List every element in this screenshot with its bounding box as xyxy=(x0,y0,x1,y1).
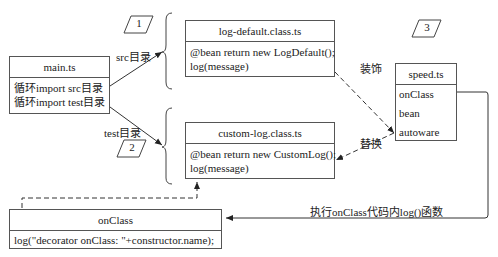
execute-label: 执行onClass代码内log()函数 xyxy=(310,203,443,219)
speed-item-autoware: autoware xyxy=(399,123,453,142)
step-3-label: 3 xyxy=(412,21,442,33)
main-line-2: 循环import test目录 xyxy=(14,95,105,109)
main-ts-box: main.ts 循环import src目录 循环import test目录 xyxy=(9,56,110,114)
step-1-label: 1 xyxy=(124,17,154,29)
main-line-1: 循环import src目录 xyxy=(14,81,105,95)
log-default-line-2: log(message) xyxy=(190,59,330,73)
src-label: src目录 xyxy=(116,48,151,64)
speed-ts-title: speed.ts xyxy=(396,64,456,85)
speed-ts-box: speed.ts onClass bean autoware xyxy=(395,63,457,141)
onclass-line-1: log("decorator onClass: "+constructor.na… xyxy=(14,233,217,247)
main-ts-title: main.ts xyxy=(10,57,109,78)
decorate-label: 装饰 xyxy=(360,60,382,76)
log-default-title: log-default.class.ts xyxy=(186,21,334,42)
custom-log-box: custom-log.class.ts @bean return new Cus… xyxy=(185,122,335,179)
replace-label: 替换 xyxy=(360,135,382,151)
custom-log-line-1: @bean return new CustomLog(); xyxy=(190,147,330,161)
step-2-label: 2 xyxy=(117,141,147,153)
log-default-line-1: @bean return new LogDefault(); xyxy=(190,45,330,59)
speed-item-bean: bean xyxy=(399,104,453,123)
test-label: test目录 xyxy=(104,124,141,140)
onclass-box: onClass log("decorator onClass: "+constr… xyxy=(9,209,222,249)
onclass-title: onClass xyxy=(10,210,221,231)
speed-item-onclass: onClass xyxy=(399,85,453,104)
log-default-box: log-default.class.ts @bean return new Lo… xyxy=(185,20,335,77)
custom-log-line-2: log(message) xyxy=(190,161,330,175)
custom-log-title: custom-log.class.ts xyxy=(186,123,334,144)
